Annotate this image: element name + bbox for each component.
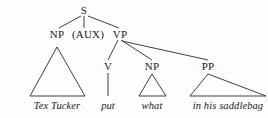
node-np-subject: NP [50,29,64,40]
triangle-tex-tucker [30,47,85,96]
np-subject-triangle [30,47,85,96]
triangle-what [139,74,166,96]
branch-s-to-np [59,16,81,28]
vp-branches [108,40,208,60]
syntax-tree-figure: S NP (AUX) VP V NP PP Tex Tucker put wha… [0,0,268,118]
node-s: S [81,5,87,16]
node-v: V [104,61,112,72]
branch-s-to-vp [88,16,119,28]
branch-vp-to-np [121,40,152,60]
node-vp: VP [113,29,127,40]
pp-triangle [190,74,266,96]
branch-vp-to-v [108,40,118,60]
branch-vp-to-pp [122,41,208,60]
terminal-verb: put [101,101,115,112]
terminal-object: what [142,101,163,112]
s-branches [59,16,119,28]
np-object-triangle [139,74,166,96]
node-pp: PP [202,61,215,72]
triangle-in-his-saddlebag [190,74,266,96]
node-aux: (AUX) [72,29,104,40]
terminal-subject: Tex Tucker [34,101,80,112]
node-np-object: NP [145,61,159,72]
terminal-prepositional-phrase: in his saddlebag [193,101,263,112]
